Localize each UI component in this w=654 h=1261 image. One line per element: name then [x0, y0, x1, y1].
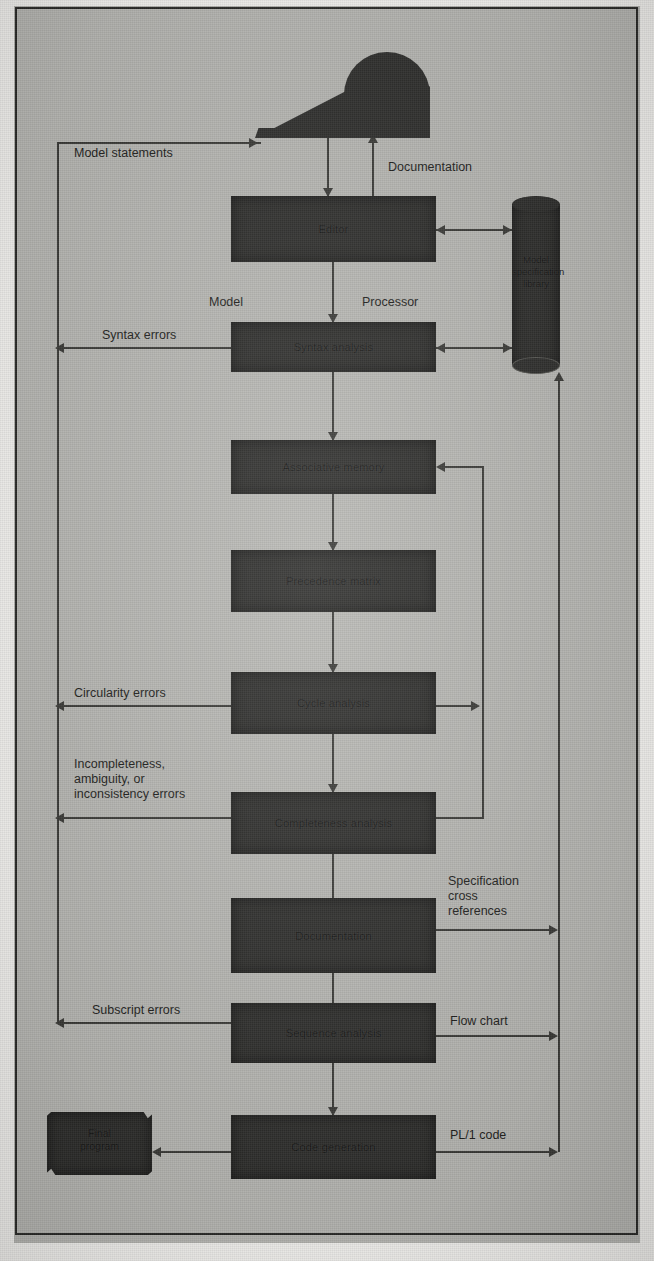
edge-circularity-errors — [61, 705, 233, 707]
node-terminal-symbol[interactable] — [255, 52, 430, 138]
scan-margin-top — [0, 0, 654, 6]
arrowhead-library-to-editor — [436, 225, 445, 235]
edge-completeness-loop-out — [436, 817, 484, 819]
arrowhead-spec-cross-references — [549, 925, 558, 935]
scan-margin-bottom — [0, 1243, 654, 1261]
label-pl1-code: PL/1 code — [450, 1128, 506, 1143]
label-incompleteness-errors: Incompleteness, ambiguity, or inconsiste… — [74, 757, 185, 802]
arrowhead-subscript-errors — [55, 1018, 64, 1028]
node-code-generation[interactable]: Code generation — [231, 1115, 436, 1179]
edge-editor-to-terminal — [372, 136, 374, 196]
arrowhead-library-to-syntax — [436, 343, 445, 353]
arrowhead-loop-into-assoc — [436, 462, 445, 472]
node-model-specification-library[interactable]: Model specification library — [512, 196, 560, 374]
node-precedence-matrix[interactable]: Precedence matrix — [231, 550, 436, 612]
arrowhead-model-statements — [249, 138, 258, 148]
arrowhead-flow-chart — [549, 1031, 558, 1041]
scan-margin-left — [0, 0, 14, 1261]
arrowhead-editor-to-library — [503, 225, 512, 235]
scan-margin-right — [640, 0, 654, 1261]
node-sequence-analysis-label: Sequence analysis — [286, 1027, 382, 1039]
node-code-generation-label: Code generation — [291, 1141, 375, 1153]
node-associative-memory-label: Associative memory — [282, 461, 384, 473]
label-processor: Processor — [362, 295, 418, 310]
terminal-fan-shape — [344, 52, 430, 138]
node-syntax-analysis-label: Syntax analysis — [294, 341, 373, 353]
edge-terminal-to-editor — [327, 136, 329, 196]
node-cycle-analysis[interactable]: Cycle analysis — [231, 672, 436, 734]
edge-completeness-loop-riser — [482, 466, 484, 818]
node-documentation-label: Documentation — [295, 930, 372, 942]
node-documentation[interactable]: Documentation — [231, 898, 436, 973]
node-editor[interactable]: Editor — [231, 196, 436, 262]
edge-loop-into-assoc — [444, 466, 484, 468]
label-specification-cross-references: Specification cross references — [448, 874, 519, 919]
edge-editor-to-syntax — [332, 262, 334, 322]
node-cycle-analysis-label: Cycle analysis — [297, 697, 370, 709]
arrowhead-cycle-loop-out — [471, 701, 480, 711]
edge-pl1-code — [436, 1151, 554, 1153]
arrowhead-circularity-errors — [55, 701, 64, 711]
arrowhead-code-to-final-program — [152, 1147, 161, 1157]
edge-syntax-to-assoc — [332, 372, 334, 440]
terminal-base-shape — [255, 128, 430, 138]
arrowhead-pl1-code — [549, 1147, 558, 1157]
left-feedback-trunk — [57, 143, 59, 1023]
edge-precedence-to-cycle — [332, 612, 334, 672]
node-completeness-analysis-label: Completeness analysis — [275, 817, 392, 829]
edge-incompleteness-errors — [61, 817, 233, 819]
node-syntax-analysis[interactable]: Syntax analysis — [231, 322, 436, 372]
node-precedence-matrix-label: Precedence matrix — [286, 575, 381, 587]
node-completeness-analysis[interactable]: Completeness analysis — [231, 792, 436, 854]
cylinder-top-ellipse — [512, 196, 560, 213]
label-documentation-flow: Documentation — [388, 160, 472, 175]
arrowhead-syntax-to-library — [503, 343, 512, 353]
label-syntax-errors: Syntax errors — [102, 328, 176, 343]
label-flow-chart: Flow chart — [450, 1014, 508, 1029]
node-sequence-analysis[interactable]: Sequence analysis — [231, 1003, 436, 1063]
edge-spec-cross-references — [436, 929, 554, 931]
arrowhead-syntax-errors — [55, 343, 64, 353]
label-circularity-errors: Circularity errors — [74, 686, 166, 701]
edge-code-to-final-program — [160, 1151, 232, 1153]
arrowhead-incompleteness-errors — [55, 813, 64, 823]
node-editor-label: Editor — [319, 223, 349, 235]
cylinder-bottom-ellipse — [512, 357, 560, 374]
label-model-statements: Model statements — [74, 146, 173, 161]
label-model: Model — [209, 295, 243, 310]
node-library-label: Model specification library — [512, 254, 560, 290]
node-associative-memory[interactable]: Associative memory — [231, 440, 436, 494]
edge-model-statements — [57, 142, 261, 144]
edge-syntax-errors — [61, 347, 233, 349]
edge-subscript-errors — [61, 1022, 233, 1024]
node-final-program-label: Final program — [47, 1127, 152, 1153]
figure-page: Editor Model specification library Synta… — [0, 0, 654, 1261]
label-subscript-errors: Subscript errors — [92, 1003, 180, 1018]
edge-flow-chart — [436, 1035, 554, 1037]
right-output-trunk — [558, 380, 560, 1152]
